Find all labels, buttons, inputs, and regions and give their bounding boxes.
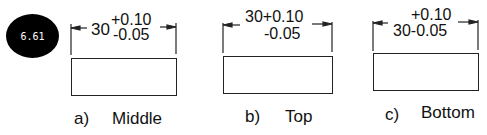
caption-label: Top bbox=[285, 107, 312, 127]
caption-letter: c) bbox=[385, 105, 399, 125]
caption-letter: a) bbox=[74, 109, 89, 129]
nominal-value: 30 bbox=[91, 22, 110, 38]
part-rectangle bbox=[373, 53, 479, 91]
lower-tolerance: -0.05 bbox=[113, 27, 149, 43]
dimension-line2: -0.05 bbox=[264, 26, 300, 42]
dimension-line1: +0.10 bbox=[411, 7, 451, 23]
dimension-line1: 30+0.10 bbox=[245, 9, 303, 25]
part-rectangle bbox=[71, 58, 177, 96]
dimension-line2: 30-0.05 bbox=[393, 23, 447, 39]
caption-label: Middle bbox=[112, 109, 162, 129]
part-rectangle bbox=[223, 56, 333, 94]
caption-label: Bottom bbox=[421, 103, 475, 123]
caption-letter: b) bbox=[245, 107, 260, 127]
